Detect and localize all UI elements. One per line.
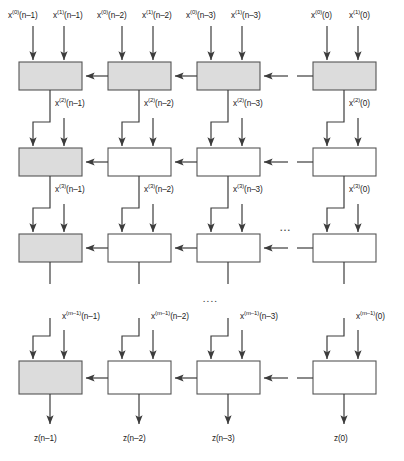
inter-label-r2c4: x(3)(0) — [349, 186, 370, 194]
inter-label-r4c1: x(m–1)(n–1) — [62, 313, 100, 321]
v-link-r1c3 — [211, 90, 228, 146]
v-link-r2c4 — [327, 176, 344, 232]
top-input-label-c3b: x(1)(n–3) — [231, 12, 261, 20]
top-input-label-c3a: x(0)(n–3) — [186, 12, 216, 20]
top-input-arrows — [33, 26, 358, 60]
inter-label-r4c2: x(m–1)(n–2) — [151, 313, 189, 321]
v-link-r4c4-left — [327, 318, 344, 359]
pe-cell-r3c1 — [19, 234, 82, 262]
ellipsis-vertical-rows: .... — [203, 296, 218, 304]
v-link-r2c1 — [33, 176, 50, 232]
row4-input-links — [33, 318, 358, 359]
cells-layer — [19, 62, 376, 394]
inter-label-r2c3: x(3)(n–3) — [233, 186, 263, 194]
horizontal-links-layer — [86, 76, 313, 378]
top-input-label-c2a: x(0)(n–2) — [97, 12, 127, 20]
inter-label-r4c4: x(m–1)(0) — [356, 313, 385, 321]
inter-label-r1c3: x(2)(n–3) — [233, 100, 263, 108]
output-label-c1: z(n–1) — [34, 435, 57, 443]
pe-cell-r3c4 — [313, 234, 376, 262]
pe-cell-r2c4 — [313, 148, 376, 176]
top-input-label-c1b: x(1)(n–1) — [53, 12, 83, 20]
v-link-r1c2 — [122, 90, 139, 146]
v-link-r1c4 — [327, 90, 344, 146]
pe-cell-r3c3 — [197, 234, 260, 262]
output-arrows-layer — [50, 394, 344, 424]
pe-cell-r3c2 — [108, 234, 171, 262]
output-label-c4: z(0) — [334, 435, 348, 443]
pe-cell-r2c3 — [197, 148, 260, 176]
v-link-r4c3-left — [211, 318, 228, 359]
v-link-r4c1-left — [33, 318, 50, 359]
output-label-c2: z(n–2) — [123, 435, 146, 443]
pe-cell-r1c2 — [108, 62, 171, 90]
v-link-r2c2 — [122, 176, 139, 232]
ellipsis-horizontal-columns: ... — [280, 224, 291, 233]
inter-label-r2c1: x(3)(n–1) — [55, 186, 85, 194]
inter-label-r2c2: x(3)(n–2) — [144, 186, 174, 194]
pe-cell-r1c3 — [197, 62, 260, 90]
inter-label-r4c3: x(m–1)(n–3) — [240, 313, 278, 321]
top-input-label-c1a: x(0)(n–1) — [8, 12, 38, 20]
pe-cell-r1c4 — [313, 62, 376, 90]
pe-cell-r2c2 — [108, 148, 171, 176]
pe-cell-r4c2 — [108, 361, 171, 394]
v-link-r4c2-left — [122, 318, 139, 359]
pe-cell-r4c4 — [313, 361, 376, 394]
output-label-c3: z(n–3) — [212, 435, 235, 443]
pe-cell-r4c1 — [19, 361, 82, 394]
top-input-label-c4b: x(1)(0) — [349, 12, 370, 20]
diagram-canvas — [0, 0, 404, 461]
top-input-label-c4a: x(0)(0) — [311, 12, 332, 20]
top-input-label-c2b: x(1)(n–2) — [142, 12, 172, 20]
systolic-array-figure: x(0)(n–1) x(1)(n–1) x(0)(n–2) x(1)(n–2) … — [0, 0, 404, 461]
inter-label-r1c4: x(2)(0) — [349, 100, 370, 108]
v-link-r1c1 — [33, 90, 50, 146]
inter-label-r1c1: x(2)(n–1) — [55, 100, 85, 108]
inter-label-r1c2: x(2)(n–2) — [144, 100, 174, 108]
pe-cell-r1c1 — [19, 62, 82, 90]
v-link-r2c3 — [211, 176, 228, 232]
row3-output-stubs — [50, 262, 344, 284]
pe-cell-r4c3 — [197, 361, 260, 394]
pe-cell-r2c1 — [19, 148, 82, 176]
